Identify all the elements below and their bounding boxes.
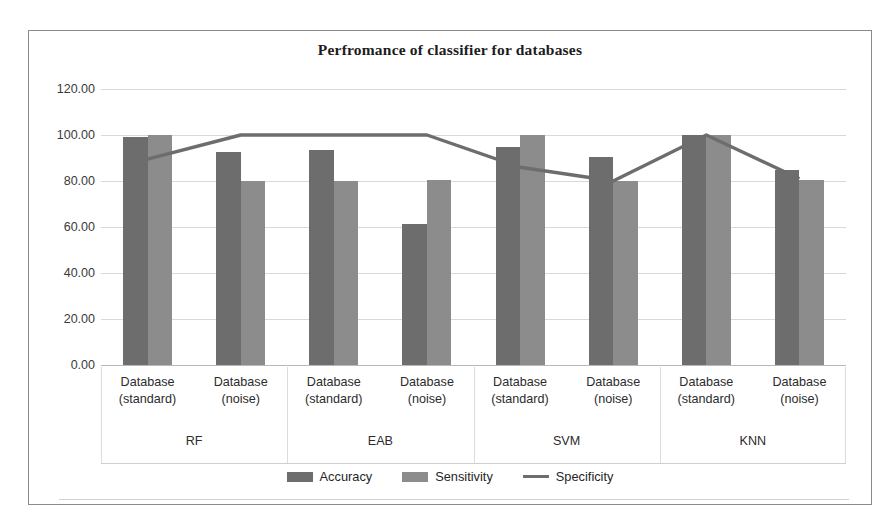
chart-frame: Perfromance of classifier for databases …: [28, 30, 872, 505]
category-label-line: Database: [474, 374, 567, 391]
category-label: Database(noise): [380, 367, 473, 425]
category-label-line: Database: [194, 374, 287, 391]
category-label-line: Database: [567, 374, 660, 391]
group-label-svm: SVM: [474, 425, 660, 463]
category-separator: [101, 367, 102, 425]
legend-item-accuracy[interactable]: Accuracy: [287, 469, 373, 484]
group-separator: [101, 425, 102, 463]
category-separator: [287, 367, 288, 425]
group-axis: RFEABSVMKNN: [101, 425, 846, 463]
category-label-line: Database: [101, 374, 194, 391]
group-separator: [287, 425, 288, 463]
legend-item-specificity[interactable]: Specificity: [523, 469, 614, 484]
bar-swatch-dark-icon: [287, 472, 313, 482]
category-label-line: (standard): [287, 391, 380, 408]
chart-title: Perfromance of classifier for databases: [29, 41, 871, 59]
category-separator: [660, 367, 661, 425]
category-label-line: (noise): [753, 391, 846, 408]
legend-divider: [59, 499, 849, 500]
y-axis-tick-labels: 120.00100.0080.0060.0040.0020.000.00: [29, 89, 95, 365]
group-separator: [474, 425, 475, 463]
axis-divider: [101, 463, 846, 464]
category-label-line: (noise): [194, 391, 287, 408]
category-axis: Database(standard)Database(noise)Databas…: [101, 367, 846, 425]
category-label: Database(noise): [194, 367, 287, 425]
category-label-line: (noise): [380, 391, 473, 408]
line-specificity: [148, 135, 800, 181]
category-label-line: Database: [660, 374, 753, 391]
category-label-line: Database: [380, 374, 473, 391]
group-label-rf: RF: [101, 425, 287, 463]
group-separator: [845, 425, 846, 463]
y-tick-label: 60.00: [35, 220, 95, 234]
plot-area: [101, 89, 846, 365]
y-tick-label: 80.00: [35, 174, 95, 188]
legend-item-sensitivity[interactable]: Sensitivity: [402, 469, 493, 484]
chart-legend: AccuracySensitivitySpecificity: [29, 469, 871, 484]
gridline-0: [101, 365, 846, 366]
group-label-eab: EAB: [287, 425, 473, 463]
group-separator: [660, 425, 661, 463]
category-label: Database(standard): [101, 367, 194, 425]
category-label-line: Database: [287, 374, 380, 391]
group-label-knn: KNN: [660, 425, 846, 463]
category-label: Database(standard): [474, 367, 567, 425]
bar-swatch-light-icon: [402, 472, 428, 482]
y-tick-label: 120.00: [35, 82, 95, 96]
legend-label: Specificity: [556, 469, 614, 484]
category-label: Database(noise): [567, 367, 660, 425]
category-label: Database(standard): [287, 367, 380, 425]
category-label-line: (standard): [660, 391, 753, 408]
category-separator: [845, 367, 846, 425]
category-label-line: (standard): [474, 391, 567, 408]
y-tick-label: 20.00: [35, 312, 95, 326]
category-separator: [474, 367, 475, 425]
y-tick-label: 0.00: [35, 358, 95, 372]
category-label-line: (standard): [101, 391, 194, 408]
specificity-line-series: [101, 89, 846, 365]
y-tick-label: 100.00: [35, 128, 95, 142]
legend-label: Accuracy: [320, 469, 373, 484]
category-label: Database(noise): [753, 367, 846, 425]
category-label: Database(standard): [660, 367, 753, 425]
category-label-line: Database: [753, 374, 846, 391]
line-swatch-icon: [523, 475, 549, 478]
y-tick-label: 40.00: [35, 266, 95, 280]
legend-label: Sensitivity: [435, 469, 493, 484]
category-label-line: (noise): [567, 391, 660, 408]
